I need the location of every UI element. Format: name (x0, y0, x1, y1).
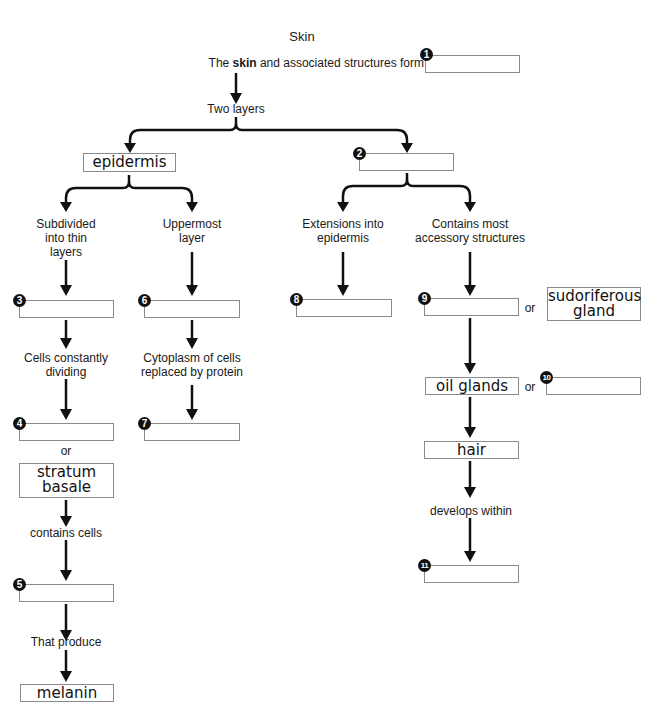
number-badge-3: 3 (13, 294, 26, 307)
number-badge-5: 5 (13, 578, 26, 591)
label-subdivided: Subdivided into thin layers (16, 217, 116, 259)
label-line: Subdivided (16, 217, 116, 231)
answer-box-4[interactable] (19, 423, 114, 441)
answer-box-1[interactable] (425, 55, 520, 73)
answer-box-5[interactable] (19, 584, 114, 602)
label-contains-most: Contains most accessory structures (405, 217, 535, 245)
number-badge-1: 1 (420, 48, 433, 61)
label-extensions: Extensions into epidermis (283, 217, 403, 245)
label-line: epidermis (283, 231, 403, 245)
label-line: replaced by protein (132, 365, 252, 379)
label-uppermost: Uppermost layer (142, 217, 242, 245)
label-or: or (522, 301, 538, 315)
label-or: or (58, 444, 74, 458)
number-badge-11: 11 (418, 559, 431, 572)
label-that-produce: That produce (21, 635, 111, 649)
label-line: Contains most (405, 217, 535, 231)
filled-box-epidermis: epidermis (83, 153, 176, 172)
answer-box-3[interactable] (19, 300, 114, 318)
label-line: dividing (16, 365, 116, 379)
answer-box-8[interactable] (296, 299, 392, 317)
label-line: layer (142, 231, 242, 245)
answer-box-7[interactable] (144, 423, 240, 441)
intro-suffix: and associated structures form (257, 56, 424, 70)
number-badge-7: 7 (138, 417, 151, 430)
number-badge-10: 10 (540, 371, 553, 384)
filled-box-hair: hair (424, 441, 519, 459)
label-line: Cytoplasm of cells (132, 351, 252, 365)
diagram-title: Skin (270, 30, 334, 44)
number-badge-8: 8 (290, 293, 303, 306)
filled-line: gland (548, 304, 640, 319)
intro-prefix: The (209, 56, 233, 70)
filled-box-melanin: melanin (20, 684, 114, 702)
number-badge-6: 6 (138, 294, 151, 307)
label-line: layers (16, 245, 116, 259)
label-two-layers: Two layers (196, 102, 276, 116)
filled-box-oil-glands: oil glands (425, 377, 519, 395)
answer-box-6[interactable] (144, 300, 240, 318)
number-badge-9: 9 (418, 292, 431, 305)
filled-line: basale (20, 480, 113, 495)
label-line: accessory structures (405, 231, 535, 245)
answer-box-11[interactable] (424, 565, 519, 583)
answer-box-2[interactable] (359, 153, 454, 171)
filled-box-sudoriferous-gland: sudoriferous gland (547, 287, 641, 321)
intro-text: The skin and associated structures form (200, 56, 424, 70)
answer-box-9[interactable] (424, 298, 519, 316)
label-line: Extensions into (283, 217, 403, 231)
label-contains-cells: contains cells (21, 526, 111, 540)
filled-box-stratum-basale: stratum basale (19, 463, 114, 498)
intro-bold-skin: skin (233, 56, 257, 70)
label-line: Uppermost (142, 217, 242, 231)
label-cells-dividing: Cells constantly dividing (16, 351, 116, 379)
label-develops-within: develops within (426, 504, 516, 518)
label-line: Cells constantly (16, 351, 116, 365)
label-or: or (522, 380, 538, 394)
answer-box-10[interactable] (546, 377, 641, 395)
number-badge-2: 2 (353, 147, 366, 160)
label-cytoplasm: Cytoplasm of cells replaced by protein (132, 351, 252, 379)
number-badge-4: 4 (13, 417, 26, 430)
label-line: into thin (16, 231, 116, 245)
